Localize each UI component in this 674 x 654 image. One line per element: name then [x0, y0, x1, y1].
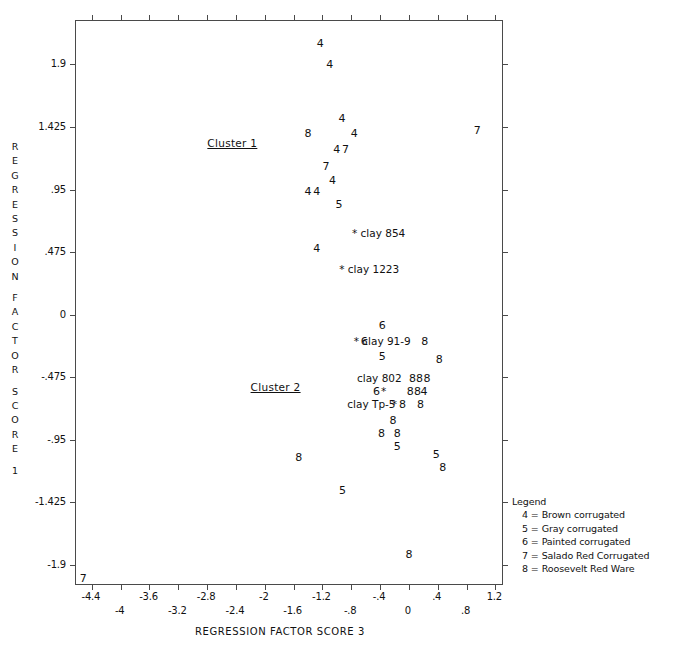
x-tick-label: .4 — [432, 591, 441, 602]
cluster-annotation: Cluster 2 — [251, 381, 301, 393]
x-tick-label: -1.2 — [312, 591, 331, 602]
x-tick-mark — [236, 584, 237, 590]
y-tick-label: 1.9 — [0, 58, 66, 69]
x-tick-mark — [149, 584, 150, 590]
x-tick-mark — [409, 584, 410, 590]
y-tick-mark — [70, 127, 76, 128]
x-tick-mark — [495, 584, 496, 590]
y-axis-title-char — [8, 457, 22, 464]
x-tick-mark — [467, 584, 468, 590]
x-tick-label: -4.4 — [81, 591, 100, 602]
x-tick-mark — [265, 15, 266, 21]
legend-item: 8 = Roosevelt Red Ware — [522, 562, 649, 575]
x-tick-mark — [495, 15, 496, 21]
x-tick-label: -2 — [259, 591, 269, 602]
y-tick-mark — [502, 252, 508, 253]
x-tick-mark — [351, 584, 352, 590]
data-point: 8 — [394, 428, 401, 439]
clay-sample-label: clay 802 — [357, 372, 402, 383]
data-point: 4 — [305, 185, 312, 196]
y-axis-title-char: O — [8, 413, 22, 427]
data-point: 5 — [339, 484, 346, 495]
data-point: 4 — [333, 143, 340, 154]
y-tick-label: -1.9 — [0, 558, 66, 569]
data-point: 4 — [351, 127, 358, 138]
x-tick-mark — [380, 15, 381, 21]
y-tick-mark — [70, 64, 76, 65]
x-tick-label: -3.6 — [139, 591, 158, 602]
x-tick-mark — [438, 15, 439, 21]
legend-item: 5 = Gray corrugated — [522, 522, 649, 535]
data-point: 7 — [80, 573, 87, 584]
data-point: 4 — [317, 38, 324, 49]
data-point: 8 — [390, 415, 397, 426]
y-axis-title-char: S — [8, 226, 22, 240]
y-axis-title-char: 1 — [8, 464, 22, 478]
y-tick-mark — [502, 190, 508, 191]
x-tick-mark — [178, 584, 179, 590]
clay-sample-label: * — [381, 386, 386, 397]
x-tick-label: .8 — [461, 605, 470, 616]
x-tick-mark — [265, 584, 266, 590]
x-tick-mark — [236, 15, 237, 21]
data-point: 8 — [423, 372, 430, 383]
scatter-plot-figure: REGRESSIONFACTORSCORE1 REGRESSION FACTOR… — [0, 0, 674, 654]
y-tick-mark — [502, 565, 508, 566]
x-tick-label: 0 — [405, 605, 411, 616]
data-point: 7 — [474, 125, 481, 136]
legend-item: 7 = Salado Red Corrugated — [522, 549, 649, 562]
x-tick-mark — [438, 584, 439, 590]
x-tick-label: 1.2 — [487, 591, 502, 602]
data-point: 8 — [436, 354, 443, 365]
clay-sample-label: clay Tp-5 — [347, 399, 395, 410]
y-axis-title-char — [8, 284, 22, 291]
clay-sample-label: * — [392, 399, 397, 410]
data-point: 4 — [329, 175, 336, 186]
y-tick-label: -.95 — [0, 433, 66, 444]
x-tick-mark — [92, 584, 93, 590]
data-point: 4 — [338, 113, 345, 124]
y-axis-title-char: C — [8, 320, 22, 334]
y-tick-label: 1.425 — [0, 121, 66, 132]
y-tick-mark — [502, 440, 508, 441]
y-axis-title-char: O — [8, 349, 22, 363]
y-tick-mark — [502, 502, 508, 503]
x-tick-label: -3.2 — [168, 605, 187, 616]
y-axis-title-char: N — [8, 270, 22, 284]
cluster-annotation: Cluster 1 — [207, 137, 257, 149]
x-tick-mark — [409, 15, 410, 21]
data-point: 8 — [421, 336, 428, 347]
clay-sample-label: * clay 1223 — [339, 263, 399, 274]
data-point: 8 — [439, 462, 446, 473]
data-point: 5 — [379, 350, 386, 361]
data-point: 6 — [379, 320, 386, 331]
y-tick-mark — [70, 252, 76, 253]
x-tick-mark — [467, 15, 468, 21]
y-axis-title-char: S — [8, 385, 22, 399]
data-point: 7 — [323, 160, 330, 171]
data-point: 8 — [399, 399, 406, 410]
data-point: 8 — [305, 127, 312, 138]
x-tick-label: -.4 — [373, 591, 386, 602]
y-axis-title-char: R — [8, 140, 22, 154]
y-axis-title-char: T — [8, 334, 22, 348]
y-axis-title-char: O — [8, 255, 22, 269]
y-axis-title-char: F — [8, 291, 22, 305]
x-axis-title: REGRESSION FACTOR SCORE 3 — [0, 626, 560, 637]
data-point: 8 — [405, 549, 412, 560]
legend: Legend 4 = Brown corrugated5 = Gray corr… — [512, 495, 649, 575]
legend-item: 4 = Brown corrugated — [522, 508, 649, 521]
x-tick-label: -2.4 — [226, 605, 245, 616]
x-tick-mark — [207, 15, 208, 21]
x-tick-mark — [207, 584, 208, 590]
y-tick-label: -1.425 — [0, 496, 66, 507]
y-tick-mark — [70, 502, 76, 503]
y-axis-title-char: C — [8, 399, 22, 413]
y-tick-mark — [70, 440, 76, 441]
clay-sample-label: * clay 91-9 — [354, 336, 411, 347]
y-axis-title-char: S — [8, 212, 22, 226]
data-point: 8 — [295, 451, 302, 462]
clay-sample-label: * clay 854 — [352, 228, 405, 239]
y-tick-mark — [502, 377, 508, 378]
x-tick-mark — [149, 15, 150, 21]
